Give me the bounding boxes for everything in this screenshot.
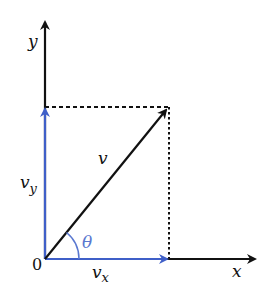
origin-label: 0 (32, 255, 42, 274)
vy-label: vy (20, 172, 38, 196)
vector-v-arrow (45, 110, 166, 259)
y-axis-label: y (27, 31, 38, 51)
vector-v-label: v (98, 148, 108, 168)
angle-theta-label: θ (82, 232, 92, 252)
angle-arc (67, 233, 80, 260)
vx-label: vx (92, 262, 110, 285)
vector-diagram: y x 0 v vy vx θ (0, 0, 277, 302)
x-axis-label: x (232, 261, 242, 281)
